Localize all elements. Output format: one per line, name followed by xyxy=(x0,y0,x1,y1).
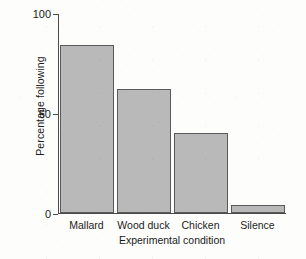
x-axis-title: Experimental condition xyxy=(58,234,286,246)
x-tick-label-wood-duck: Wood duck xyxy=(117,219,169,231)
x-axis-line xyxy=(58,213,286,214)
x-tick-label-silence: Silence xyxy=(240,219,274,231)
bar-mallard xyxy=(60,45,114,213)
x-tick-label-mallard: Mallard xyxy=(69,219,103,231)
y-tick-label: 100 xyxy=(33,8,51,20)
plot-area: 050100 MallardWood duckChickenSilence xyxy=(58,14,286,214)
bar-silence xyxy=(231,205,285,213)
y-tick-label: 50 xyxy=(39,108,51,120)
y-tick-mark xyxy=(53,14,58,15)
bar-wood-duck xyxy=(117,89,171,213)
x-tick-label-chicken: Chicken xyxy=(182,219,220,231)
y-axis-title: Percentage following xyxy=(34,21,46,191)
bar-chicken xyxy=(174,133,228,213)
y-tick-mark xyxy=(53,214,58,215)
y-tick-label: 0 xyxy=(45,208,51,220)
y-tick-mark xyxy=(53,114,58,115)
bar-chart-figure: Percentage following 050100 MallardWood … xyxy=(0,0,306,259)
